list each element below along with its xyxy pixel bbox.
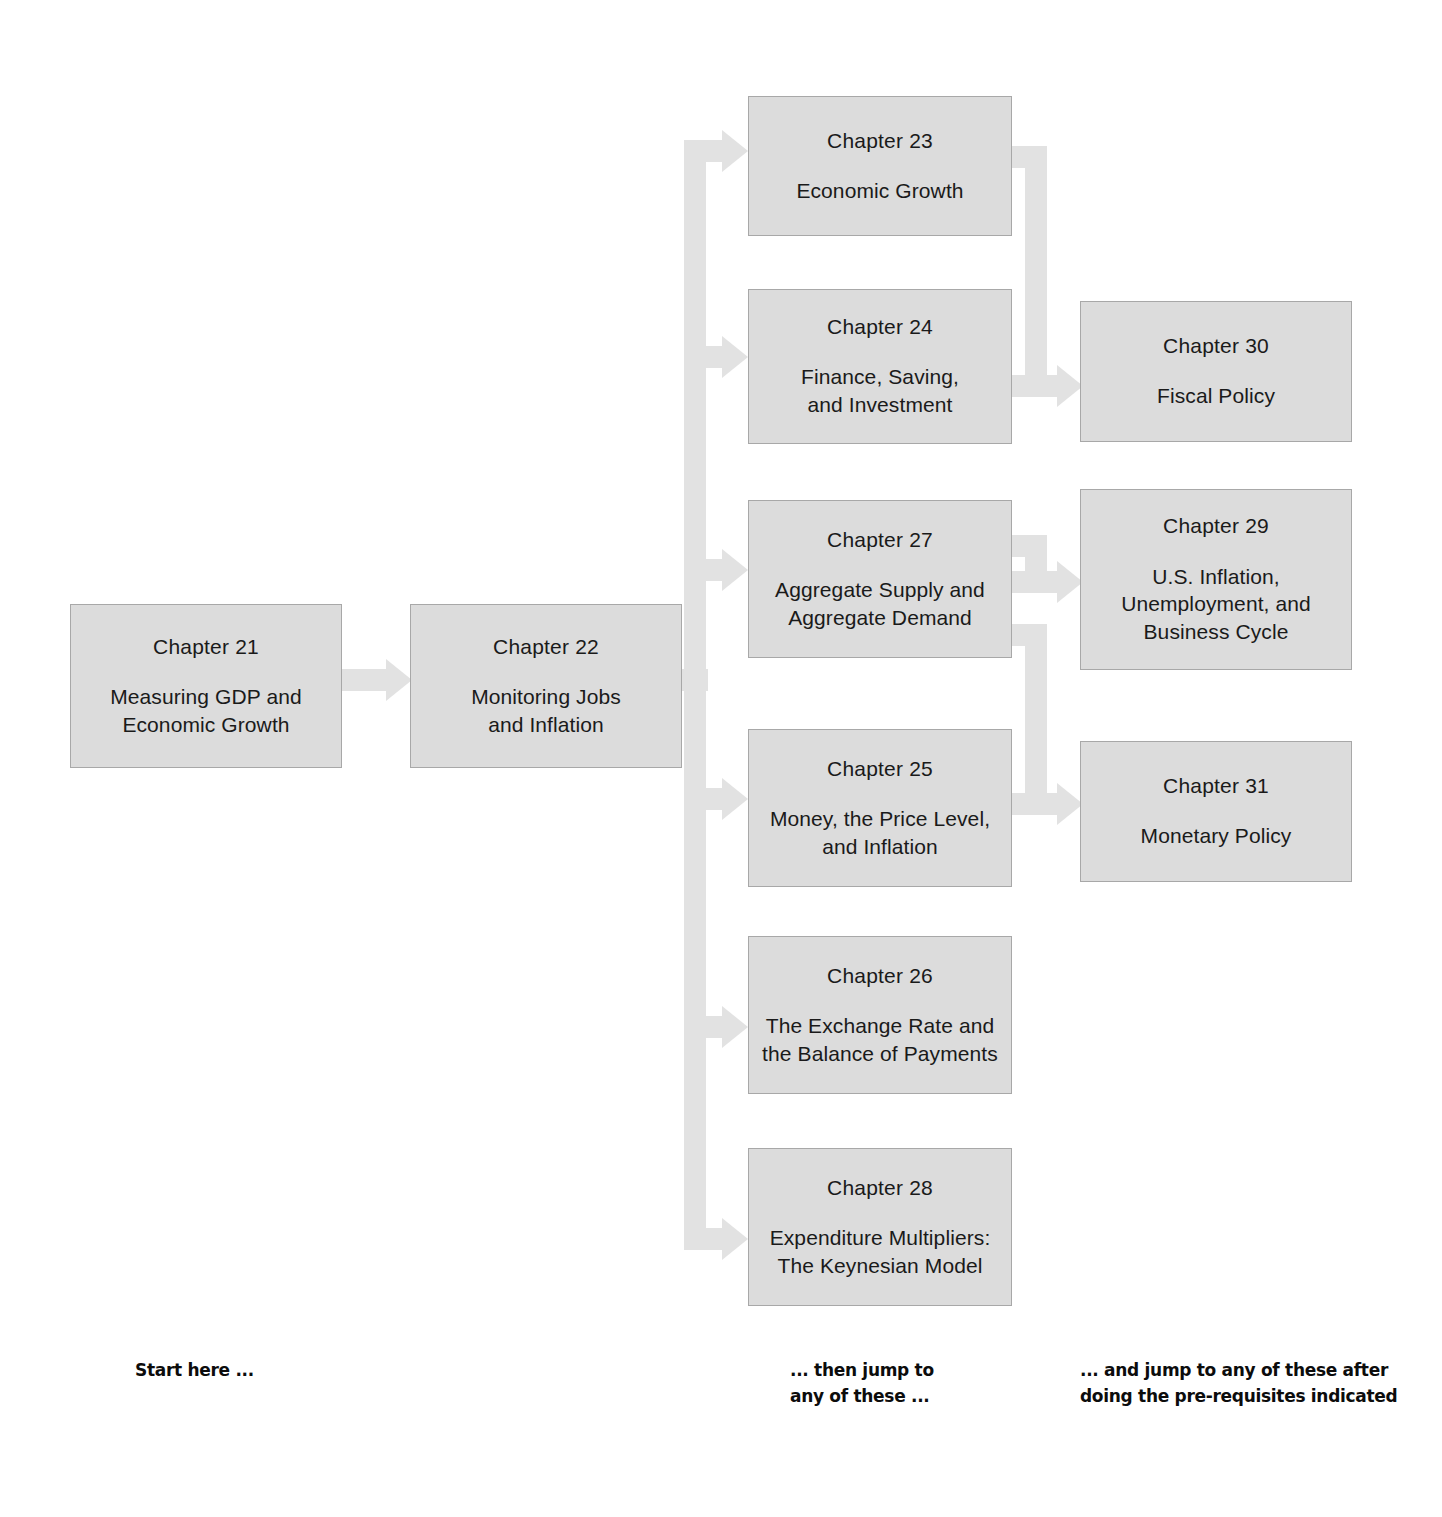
chapter-title-ch31: Monetary Policy [1135,822,1298,850]
chapter-title-ch24: Finance, Saving, and Investment [795,363,965,418]
chapter-title-ch22: Monitoring Jobs and Inflation [465,683,627,738]
chapter-title-ch23: Economic Growth [790,177,969,205]
chapter-box-ch23[interactable]: Chapter 23 Economic Growth [748,96,1012,236]
caption-then-jump-to: ... then jump to any of these ... [790,1357,934,1410]
connector-trunk-to-ch26-arrowhead [722,1006,748,1048]
chapter-box-ch24[interactable]: Chapter 24 Finance, Saving, and Investme… [748,289,1012,444]
chapter-box-ch25[interactable]: Chapter 25 Money, the Price Level, and I… [748,729,1012,887]
caption-start-here: Start here ... [135,1357,254,1383]
chapter-box-ch22[interactable]: Chapter 22 Monitoring Jobs and Inflation [410,604,682,768]
connector-trunk-to-ch25-arrowhead [722,778,748,820]
chapter-roadmap-diagram: Chapter 21 Measuring GDP and Economic Gr… [0,0,1442,1517]
chapter-number-ch23: Chapter 23 [827,128,933,153]
chapter-box-ch26[interactable]: Chapter 26 The Exchange Rate and the Bal… [748,936,1012,1094]
chapter-title-ch26: The Exchange Rate and the Balance of Pay… [756,1012,1004,1067]
connector-trunk-to-ch27-arrowhead [722,549,748,591]
caption-and-jump-to: ... and jump to any of these after doing… [1080,1357,1397,1410]
chapter-title-ch30: Fiscal Policy [1151,382,1281,410]
chapter-number-ch21: Chapter 21 [153,634,259,659]
connector-to-ch29-shaft [1011,571,1063,593]
connector-right-trunk-upper [1025,146,1047,386]
connector-trunk-to-ch24-arrowhead [722,336,748,378]
chapter-title-ch29: U.S. Inflation, Unemployment, and Busine… [1115,563,1317,646]
chapter-box-ch30[interactable]: Chapter 30 Fiscal Policy [1080,301,1352,442]
connector-ch21-to-ch22-arrowhead [386,659,412,701]
chapter-title-ch27: Aggregate Supply and Aggregate Demand [769,576,991,631]
chapter-number-ch24: Chapter 24 [827,314,933,339]
connector-middle-trunk-vertical [684,140,706,1250]
chapter-title-ch21: Measuring GDP and Economic Growth [104,683,308,738]
chapter-title-ch25: Money, the Price Level, and Inflation [764,805,996,860]
connector-trunk-to-ch28-arrowhead [722,1218,748,1260]
chapter-number-ch27: Chapter 27 [827,527,933,552]
chapter-number-ch25: Chapter 25 [827,756,933,781]
chapter-box-ch27[interactable]: Chapter 27 Aggregate Supply and Aggregat… [748,500,1012,658]
chapter-number-ch31: Chapter 31 [1163,773,1269,798]
chapter-number-ch30: Chapter 30 [1163,333,1269,358]
chapter-box-ch21[interactable]: Chapter 21 Measuring GDP and Economic Gr… [70,604,342,768]
chapter-number-ch28: Chapter 28 [827,1175,933,1200]
connector-ch21-to-ch22-shaft [342,669,390,691]
connector-right-trunk-lower [1025,624,1047,804]
connector-trunk-to-ch23-arrowhead [722,130,748,172]
chapter-number-ch22: Chapter 22 [493,634,599,659]
chapter-number-ch26: Chapter 26 [827,963,933,988]
chapter-number-ch29: Chapter 29 [1163,513,1269,538]
chapter-box-ch31[interactable]: Chapter 31 Monetary Policy [1080,741,1352,882]
chapter-box-ch28[interactable]: Chapter 28 Expenditure Multipliers: The … [748,1148,1012,1306]
chapter-box-ch29[interactable]: Chapter 29 U.S. Inflation, Unemployment,… [1080,489,1352,670]
chapter-title-ch28: Expenditure Multipliers: The Keynesian M… [764,1224,997,1279]
